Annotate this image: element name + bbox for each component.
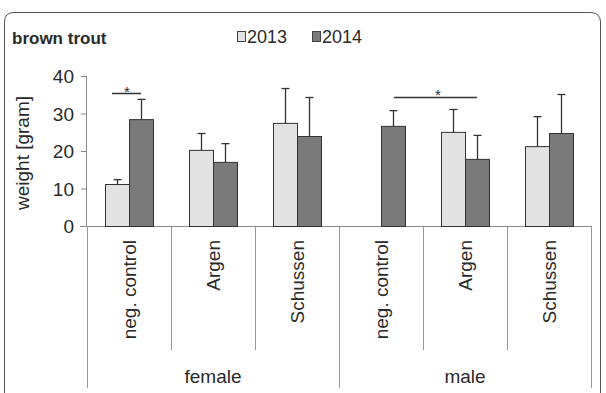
y-tick-20: 20 [53,141,74,162]
x-label-female-argen: Argen [203,240,224,291]
x-label-male-schussen: Schussen [539,240,560,323]
x-label-male-neg-control: neg. control [371,240,392,339]
group-label-female: female [184,366,241,387]
group-label-male: male [444,366,485,387]
bar-male-argen-2014 [466,159,490,226]
significance-star-male: * [435,86,441,103]
bar-male-schussen-2013 [526,147,550,227]
y-tick-0: 0 [63,216,74,237]
x-label-female-schussen: Schussen [287,240,308,323]
bar-female-schussen-2014 [298,137,322,227]
legend-label-2013: 2013 [247,27,287,47]
x-axis: neg. control Argen Schussen neg. control… [80,226,592,388]
significance-marks: * * [112,83,477,103]
y-tick-40: 40 [53,66,74,87]
bars [106,89,574,227]
y-axis: 40 30 20 10 0 weight [gram] [12,66,87,237]
bar-male-schussen-2014 [550,134,574,227]
significance-star-female: * [124,83,130,100]
y-tick-10: 10 [53,179,74,200]
bar-female-neg-control-2013 [106,185,130,227]
bar-chart: brown trout 2013 2014 40 30 20 10 0 weig… [0,0,606,393]
bar-female-argen-2014 [214,162,238,226]
legend: 2013 2014 [238,27,363,47]
legend-swatch-2013 [238,32,246,42]
legend-label-2014: 2014 [322,27,362,47]
bar-female-argen-2013 [190,150,214,226]
bar-female-schussen-2013 [274,123,298,226]
y-axis-label: weight [gram] [12,96,33,211]
bar-male-argen-2013 [442,132,466,226]
bar-male-neg-control-2014 [382,126,406,226]
legend-swatch-2014 [313,32,321,42]
x-label-male-argen: Argen [455,240,476,291]
bar-female-neg-control-2014 [130,120,154,227]
y-tick-30: 30 [53,104,74,125]
chart-title: brown trout [12,29,107,48]
x-label-female-neg-control: neg. control [119,240,140,339]
